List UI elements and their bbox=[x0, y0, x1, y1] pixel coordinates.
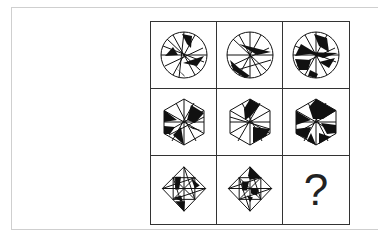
hexagon-figure-1 bbox=[151, 89, 217, 156]
missing-answer-placeholder: ? bbox=[283, 156, 349, 224]
cell-r2-c3 bbox=[283, 89, 349, 156]
cell-r2-c1 bbox=[151, 89, 217, 156]
cell-r3-c3-missing: ? bbox=[283, 156, 349, 224]
cell-r2-c2 bbox=[217, 89, 283, 156]
cell-r1-c3 bbox=[283, 22, 349, 89]
diamond-figure-2 bbox=[217, 156, 283, 223]
cell-r3-c2 bbox=[217, 156, 283, 224]
cell-r3-c1 bbox=[151, 156, 217, 224]
circle-figure-1 bbox=[151, 22, 217, 89]
circle-figure-2 bbox=[217, 22, 283, 89]
diamond-figure-1 bbox=[151, 156, 217, 223]
cell-r1-c2 bbox=[217, 22, 283, 89]
hexagon-figure-2 bbox=[217, 89, 283, 156]
puzzle-grid: ? bbox=[150, 21, 350, 225]
circle-figure-3 bbox=[283, 22, 349, 89]
cell-r1-c1 bbox=[151, 22, 217, 89]
hexagon-figure-3 bbox=[283, 89, 349, 156]
